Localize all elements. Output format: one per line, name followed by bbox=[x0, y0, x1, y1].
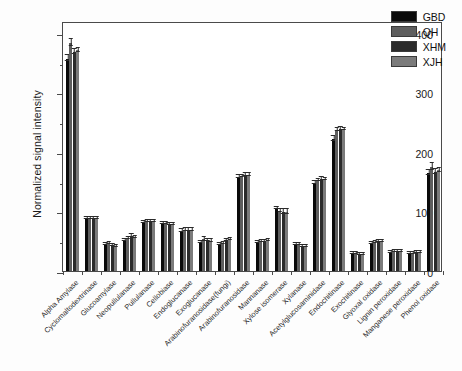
x-tick-label: Phenol oxidase bbox=[398, 278, 441, 321]
bar-group bbox=[367, 23, 386, 271]
error-bar bbox=[398, 249, 403, 252]
bar bbox=[247, 175, 250, 271]
bar bbox=[437, 170, 440, 271]
bar-chart-figure: Normalized signal intensity 010020030040… bbox=[0, 0, 462, 371]
bar-xjh bbox=[228, 23, 231, 271]
bar bbox=[171, 225, 174, 271]
x-tick bbox=[348, 271, 349, 275]
x-tick bbox=[139, 271, 140, 275]
legend-swatch bbox=[391, 41, 417, 52]
x-tick-label: Mannanase bbox=[236, 278, 270, 312]
legend-swatch bbox=[391, 11, 417, 22]
x-tick-label: Arabinofuranosidase(fungi) bbox=[162, 278, 232, 348]
bar bbox=[304, 246, 307, 271]
bar bbox=[361, 255, 364, 271]
bar-group bbox=[234, 23, 253, 271]
x-tick bbox=[272, 271, 273, 275]
legend-item-qh: QH bbox=[391, 25, 446, 38]
x-tick-label: Endochitinase bbox=[306, 278, 346, 318]
bar-xjh bbox=[133, 23, 136, 271]
bar bbox=[190, 230, 193, 271]
x-tick bbox=[253, 271, 254, 275]
x-tick-label: Xylanase bbox=[280, 278, 308, 306]
legend-label: QH bbox=[423, 26, 439, 38]
bar-xjh bbox=[152, 23, 155, 271]
x-tick bbox=[63, 271, 64, 275]
bar-xjh bbox=[190, 23, 193, 271]
error-bar bbox=[341, 127, 346, 131]
x-tick bbox=[101, 271, 102, 275]
x-tick-label: Cellobiase bbox=[144, 278, 175, 309]
error-bar bbox=[379, 239, 384, 242]
x-tick-label: Glucoamylase bbox=[78, 278, 118, 318]
bar bbox=[76, 50, 79, 271]
x-tick bbox=[310, 271, 311, 275]
bar-xjh bbox=[95, 23, 98, 271]
error-bar bbox=[75, 47, 80, 52]
x-tick-label: Glyoxal oxidase bbox=[340, 278, 384, 322]
x-tick-label: Endoglucanase bbox=[151, 278, 194, 321]
legend-label: XHM bbox=[423, 41, 446, 53]
legend-swatch bbox=[391, 56, 417, 67]
bar bbox=[399, 252, 402, 271]
plot-area: 0100200300400 bbox=[62, 22, 442, 272]
bar-xjh bbox=[361, 23, 364, 271]
x-tick bbox=[196, 271, 197, 275]
error-bar bbox=[265, 238, 270, 241]
bar bbox=[323, 179, 326, 271]
x-tick-label: Pullulanase bbox=[122, 278, 156, 312]
x-tick bbox=[329, 271, 330, 275]
x-tick-label: Alpha Amylase bbox=[38, 278, 79, 319]
error-bar bbox=[170, 222, 175, 225]
bar-group bbox=[272, 23, 291, 271]
error-bar bbox=[417, 250, 422, 253]
x-tick-label: Exoglucanase bbox=[173, 278, 213, 318]
bar-xjh bbox=[342, 23, 345, 271]
error-bar bbox=[227, 237, 232, 240]
bar-group bbox=[139, 23, 158, 271]
bar bbox=[228, 239, 231, 271]
bar-group bbox=[101, 23, 120, 271]
bar-group bbox=[63, 23, 82, 271]
error-bar bbox=[151, 219, 156, 222]
bar-xjh bbox=[304, 23, 307, 271]
x-tick-label: Cyclomaltodextrinase bbox=[42, 278, 99, 335]
error-bar bbox=[246, 172, 251, 176]
x-tick bbox=[120, 271, 121, 275]
bar-group bbox=[310, 23, 329, 271]
x-tick-label: Arabinofuranosidase bbox=[196, 278, 251, 333]
x-tick bbox=[234, 271, 235, 275]
x-tick-label: Exochitinase bbox=[328, 278, 364, 314]
error-bar bbox=[113, 244, 118, 247]
error-bar bbox=[284, 208, 289, 214]
bar-group bbox=[348, 23, 367, 271]
error-bar bbox=[436, 167, 441, 172]
bar-group bbox=[158, 23, 177, 271]
bar bbox=[95, 218, 98, 271]
bar bbox=[285, 212, 288, 271]
legend-swatch bbox=[391, 26, 417, 37]
bar-group bbox=[215, 23, 234, 271]
x-tick bbox=[405, 271, 406, 275]
bar-xjh bbox=[114, 23, 117, 271]
legend-item-xhm: XHM bbox=[391, 40, 446, 53]
bar bbox=[133, 238, 136, 271]
error-bar bbox=[208, 238, 213, 242]
x-tick bbox=[215, 271, 216, 275]
bar-group bbox=[82, 23, 101, 271]
legend-label: GBD bbox=[423, 11, 446, 23]
x-tick-label: Neopullulanase bbox=[94, 278, 137, 321]
legend-item-gbd: GBD bbox=[391, 10, 446, 23]
error-bar bbox=[189, 227, 194, 231]
x-tick bbox=[386, 271, 387, 275]
x-tick-label: Acetylglucosaminidase bbox=[267, 278, 327, 338]
x-tick bbox=[367, 271, 368, 275]
bar bbox=[342, 129, 345, 271]
x-tick-label: Xylose isomerase bbox=[241, 278, 289, 326]
x-tick bbox=[424, 271, 425, 275]
x-tick-label: Manganese peroxidase bbox=[360, 278, 421, 339]
bar-group bbox=[253, 23, 272, 271]
error-bar bbox=[94, 216, 99, 219]
bar-group bbox=[291, 23, 310, 271]
bar bbox=[418, 253, 421, 271]
